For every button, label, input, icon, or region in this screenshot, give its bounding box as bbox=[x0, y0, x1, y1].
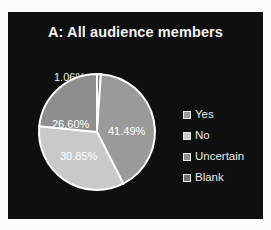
legend-item-label: Uncertain bbox=[195, 151, 244, 163]
legend: Yes No Uncertain Blank bbox=[183, 104, 263, 188]
legend-swatch-icon bbox=[183, 174, 191, 182]
pie-chart-svg: 41.49% 30.85% 26.60% bbox=[32, 64, 162, 199]
legend-swatch-icon bbox=[183, 111, 191, 119]
legend-item-label: Blank bbox=[195, 172, 224, 184]
pie-chart: 41.49% 30.85% 26.60% bbox=[32, 64, 162, 199]
legend-item-label: No bbox=[195, 130, 210, 142]
legend-swatch-icon bbox=[183, 132, 191, 140]
figure-container: A: All audience members 1.06% 41.49% bbox=[0, 0, 271, 230]
legend-swatch-icon bbox=[183, 153, 191, 161]
page-title: A: All audience members bbox=[8, 24, 263, 40]
pie-label-uncertain: 26.60% bbox=[52, 118, 90, 130]
legend-item-yes[interactable]: Yes bbox=[183, 104, 263, 125]
legend-item-label: Yes bbox=[195, 109, 214, 121]
pie-label-yes: 41.49% bbox=[108, 125, 146, 137]
legend-item-no[interactable]: No bbox=[183, 125, 263, 146]
legend-item-blank[interactable]: Blank bbox=[183, 167, 263, 188]
chart-panel: A: All audience members 1.06% 41.49% bbox=[8, 12, 263, 219]
pie-label-no: 30.85% bbox=[60, 150, 98, 162]
legend-item-uncertain[interactable]: Uncertain bbox=[183, 146, 263, 167]
